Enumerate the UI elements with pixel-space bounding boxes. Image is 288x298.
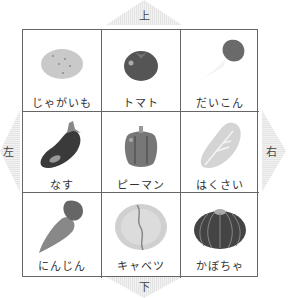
cell-label: だいこん [196,94,244,110]
down-arrow: 下 [106,277,182,298]
cell-label: じゃがいも [32,94,92,110]
up-arrow: 上 [106,0,182,25]
napa-cabbage-icon [190,120,250,172]
grid-cell-carrot: にんじん [23,193,102,278]
green-pepper-icon [111,120,171,172]
tomato-icon [111,38,171,90]
grid-cell-eggplant: なす [23,112,102,193]
cell-label: にんじん [38,257,86,273]
grid-cell-green-pepper: ピーマン [102,112,181,193]
grid-cell-pumpkin: かぼちゃ [181,193,259,278]
right-label: 右 [266,143,277,159]
cabbage-icon [111,201,171,253]
cell-label: キャベツ [117,257,165,273]
down-label: 下 [139,278,150,294]
cell-label: ピーマン [117,176,165,192]
grid-cell-cabbage: キャベツ [102,193,181,278]
cell-label: かぼちゃ [196,257,244,273]
pumpkin-icon [190,201,250,253]
cell-label: はくさい [196,176,244,192]
up-label: 上 [139,7,150,23]
grid-cell-daikon: だいこん [181,30,259,112]
eggplant-icon [32,120,92,172]
potato-icon [32,38,92,90]
vegetable-grid: じゃがいも トマト だいこん なす ピーマン はくさい にんじん [22,29,258,277]
cell-label: なす [50,176,74,192]
daikon-icon [190,38,250,90]
left-label: 左 [3,143,14,159]
grid-cell-tomato: トマト [102,30,181,112]
carrot-icon [32,201,92,253]
cell-label: トマト [123,94,159,110]
grid-cell-napa-cabbage: はくさい [181,112,259,193]
grid-cell-potato: じゃがいも [23,30,102,112]
